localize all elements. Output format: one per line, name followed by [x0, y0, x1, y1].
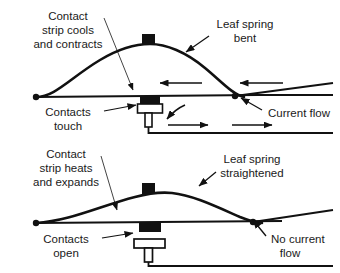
left-terminal-dot [33, 94, 39, 100]
label-line: touch [54, 120, 82, 132]
label-line: Leaf spring [217, 18, 274, 30]
spring-top-block [142, 183, 155, 194]
plunger-stem [145, 113, 152, 127]
label-line: Current flow [268, 107, 331, 119]
label-line: Leaf spring [224, 153, 281, 165]
plunger-head [138, 104, 163, 113]
thermostat-diagram: Contact strip cools and contracts Leaf s… [0, 0, 340, 273]
label-line: Contact [48, 10, 88, 22]
label-line: No current [271, 233, 325, 245]
label-line: strip heats [39, 162, 92, 174]
current-flow-label: Current flow [268, 107, 331, 119]
label-line: Contacts [45, 106, 91, 118]
plunger-head [134, 239, 165, 248]
label-line: Contact [46, 148, 86, 160]
label-line: open [53, 247, 79, 259]
label-line: and expands [33, 176, 99, 188]
label-line: flow [280, 247, 301, 259]
spring-top-block [142, 34, 155, 45]
contact-block-closed [140, 96, 160, 104]
label-line: strip cools [42, 24, 94, 36]
plunger-stem [145, 248, 153, 262]
label-line: bent [234, 32, 257, 44]
label-line: Contacts [43, 233, 89, 245]
label-line: and contracts [33, 38, 102, 50]
left-terminal-dot [33, 220, 39, 226]
label-line: straightened [220, 167, 283, 179]
contact-block-open [139, 223, 161, 232]
